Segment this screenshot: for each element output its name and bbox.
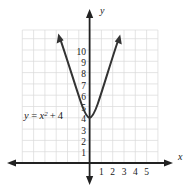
- y-axis-arrow-up-icon: [86, 9, 93, 18]
- y-tick-label: 6: [81, 92, 86, 102]
- x-axis-arrow-left-icon: [7, 159, 16, 166]
- equation-constant: 4: [58, 110, 64, 121]
- y-tick-label: 7: [81, 81, 86, 91]
- equation-annotation: y=x2+4: [23, 110, 64, 122]
- y-tick-label: 1: [81, 148, 86, 158]
- y-tick-label: 2: [81, 137, 86, 147]
- y-axis: [86, 9, 93, 185]
- y-tick-label: 3: [81, 126, 86, 136]
- x-tick-labels: 1 2 3 4 5: [99, 167, 149, 177]
- equation-lhs: y: [23, 110, 29, 121]
- y-tick-label: 4: [81, 114, 86, 124]
- x-tick-label: 5: [144, 167, 149, 177]
- x-tick-label: 4: [133, 167, 138, 177]
- x-tick-label: 2: [110, 167, 115, 177]
- parabola-graph: y x 1 2 3 4 5 6 7 8 9 10 1 2 3 4 5: [0, 0, 188, 196]
- graph-screenshot: y x 1 2 3 4 5 6 7 8 9 10 1 2 3 4 5: [0, 0, 188, 196]
- x-tick-label: 1: [99, 167, 104, 177]
- equation-equals: =: [31, 110, 37, 121]
- equation-exponent: 2: [44, 110, 48, 118]
- y-axis-label: y: [99, 5, 105, 16]
- x-axis-label: x: [177, 151, 183, 162]
- y-tick-label: 10: [77, 47, 87, 57]
- equation-plus: +: [50, 110, 56, 121]
- y-tick-label: 8: [81, 69, 86, 79]
- y-axis-arrow-down-icon: [86, 176, 93, 185]
- y-tick-label: 9: [81, 58, 86, 68]
- x-tick-label: 3: [122, 167, 127, 177]
- x-axis-arrow-right-icon: [164, 159, 173, 166]
